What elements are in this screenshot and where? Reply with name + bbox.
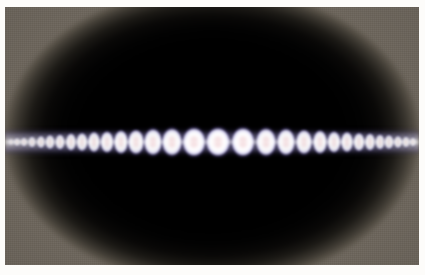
page-margin-left (0, 0, 5, 275)
photographic-plate (5, 7, 419, 265)
page-margin-right (419, 0, 425, 275)
black-disc (5, 7, 419, 265)
figure-photograph (0, 0, 425, 275)
page-margin-bottom (0, 265, 425, 275)
page-margin-top (0, 0, 425, 7)
